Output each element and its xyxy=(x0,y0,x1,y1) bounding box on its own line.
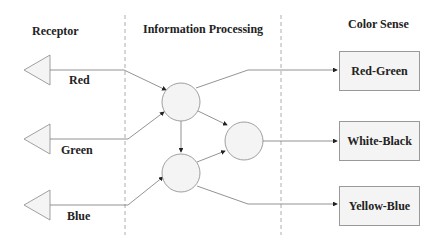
node1-to-node3 xyxy=(198,111,227,125)
output-red-green: Red-Green xyxy=(339,51,420,91)
processing-node-1 xyxy=(162,83,200,121)
processing-node-2 xyxy=(162,154,200,192)
green-signal-line xyxy=(50,112,164,139)
red-signal-line xyxy=(50,70,166,90)
header-receptor: Receptor xyxy=(32,24,79,39)
receptor-label-blue: Blue xyxy=(67,209,90,224)
node2-to-yellow-blue xyxy=(197,186,337,204)
node2-to-node3 xyxy=(197,151,225,162)
color-vision-diagram: Receptor Information Processing Color Se… xyxy=(0,0,441,241)
node1-to-red-green xyxy=(196,70,337,88)
output-yellow-blue: Yellow-Blue xyxy=(339,186,420,226)
receptor-red-icon xyxy=(24,55,50,85)
output-white-black: White-Black xyxy=(339,121,420,161)
processing-node-3 xyxy=(225,122,263,160)
header-color-sense: Color Sense xyxy=(348,17,409,32)
blue-signal-line xyxy=(50,177,163,205)
receptor-green-icon xyxy=(24,124,50,154)
receptor-label-red: Red xyxy=(69,73,90,88)
receptor-label-green: Green xyxy=(61,143,93,158)
receptor-blue-icon xyxy=(24,190,50,220)
header-information-processing: Information Processing xyxy=(143,22,263,37)
